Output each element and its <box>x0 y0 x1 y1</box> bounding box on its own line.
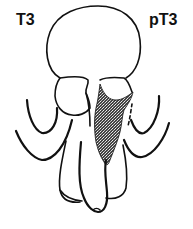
left-lobe-outline <box>55 77 90 116</box>
right-inner-arc <box>131 96 159 133</box>
tumor-region <box>95 84 134 165</box>
bladder-outline <box>47 6 141 78</box>
bottom-mark <box>93 209 100 211</box>
left-inner-arc <box>27 100 57 133</box>
anatomical-diagram <box>0 0 193 229</box>
right-lobe-outline <box>100 78 132 92</box>
right-outer-arc <box>124 123 169 157</box>
left-lower-outer <box>60 190 82 201</box>
